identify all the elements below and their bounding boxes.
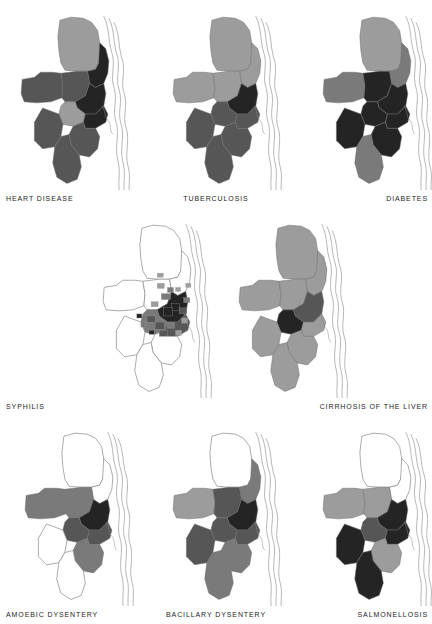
river-line-0: [406, 16, 422, 190]
map-tract-15: [149, 330, 154, 334]
map-region-north: [58, 17, 102, 71]
map-geometry: [239, 224, 348, 398]
map-panel-cirrhosis-of-the-liver: CIRRHOSIS OF THE LIVER: [216, 208, 432, 416]
map-region-north: [360, 17, 404, 71]
map-geometry: [21, 16, 130, 190]
map-geometry: [25, 432, 134, 606]
map-region-west-panhandle: [173, 488, 215, 519]
map-region-north: [210, 433, 254, 487]
river-line-0: [256, 16, 272, 190]
river-line-0: [104, 16, 120, 190]
map-tract-10: [155, 322, 164, 329]
map-tract-2: [161, 294, 170, 300]
map-region-west-panhandle: [173, 72, 215, 103]
river-line-0: [256, 432, 272, 606]
river-line-0: [186, 224, 202, 398]
map-geometry: [323, 16, 432, 190]
river-line-1: [191, 226, 207, 398]
map-tract-12: [167, 322, 174, 328]
map-region-west-panhandle: [323, 72, 365, 103]
river-line-2: [118, 438, 134, 606]
map-tract-11: [141, 322, 147, 327]
map-tract-4: [184, 298, 190, 303]
map-tract-6: [171, 304, 179, 311]
map-tract-19: [157, 273, 163, 277]
river-line-1: [411, 18, 427, 190]
choropleth-salmonellosis: [288, 416, 432, 606]
river-line-0: [108, 432, 124, 606]
river-line-2: [416, 438, 432, 606]
river-line-2: [266, 22, 282, 190]
river-line-1: [261, 18, 277, 190]
map-tract-5: [151, 302, 158, 307]
map-geometry: [173, 432, 282, 606]
river-line-0: [406, 432, 422, 606]
map-region-west-panhandle: [323, 488, 365, 519]
river-line-0: [322, 224, 338, 398]
river-line-2: [114, 22, 130, 190]
map-label-syphilis: SYPHILIS: [6, 403, 45, 410]
map-panel-amoebic-dysentery: AMOEBIC DYSENTERY: [0, 416, 144, 624]
map-region-west-panhandle: [239, 280, 281, 311]
map-tract-1: [167, 287, 173, 292]
map-region-west-panhandle: [25, 488, 67, 519]
map-panel-diabetes: DIABETES: [288, 0, 432, 208]
choropleth-syphilis: [0, 208, 216, 398]
map-tract-17: [137, 314, 142, 318]
choropleth-cirrhosis-of-the-liver: [216, 208, 432, 398]
river-line-2: [196, 230, 212, 398]
map-label-cirrhosis-of-the-liver: CIRRHOSIS OF THE LIVER: [320, 403, 428, 410]
map-region-west-panhandle: [103, 280, 145, 311]
map-region-north: [360, 433, 404, 487]
choropleth-amoebic-dysentery: [0, 416, 144, 606]
choropleth-diabetes: [288, 0, 432, 190]
river-line-2: [266, 438, 282, 606]
map-label-diabetes: DIABETES: [386, 195, 428, 202]
map-tract-3: [176, 287, 181, 291]
map-panel-salmonellosis: SALMONELLOSIS: [288, 416, 432, 624]
river-line-2: [332, 230, 348, 398]
map-label-tuberculosis: TUBERCULOSIS: [183, 195, 248, 202]
map-geometry: [323, 432, 432, 606]
map-region-north: [276, 225, 320, 279]
map-geometry: [103, 224, 212, 398]
map-tract-14: [159, 330, 167, 336]
map-tract-9: [147, 316, 155, 322]
river-line-2: [416, 22, 432, 190]
river-line-1: [113, 434, 129, 606]
map-panel-syphilis: SYPHILIS: [0, 208, 216, 416]
disease-map-matrix: HEART DISEASE TUBERCULOSIS DIABETES SYPH…: [0, 0, 432, 624]
map-tract-7: [163, 308, 172, 316]
map-label-bacillary-dysentery: BACILLARY DYSENTERY: [166, 611, 266, 618]
map-panel-tuberculosis: TUBERCULOSIS: [144, 0, 288, 208]
map-region-north: [62, 433, 106, 487]
map-tract-16: [176, 330, 182, 335]
map-panel-bacillary-dysentery: BACILLARY DYSENTERY: [144, 416, 288, 624]
map-region-north: [210, 17, 254, 71]
river-line-1: [411, 434, 427, 606]
map-tract-18: [186, 283, 191, 287]
choropleth-bacillary-dysentery: [144, 416, 288, 606]
river-line-1: [261, 434, 277, 606]
river-line-1: [109, 18, 125, 190]
map-label-salmonellosis: SALMONELLOSIS: [358, 611, 428, 618]
choropleth-tuberculosis: [144, 0, 288, 190]
map-tract-0: [157, 283, 164, 288]
map-label-heart-disease: HEART DISEASE: [6, 195, 73, 202]
river-line-1: [327, 226, 343, 398]
map-tract-8: [180, 308, 187, 314]
map-region-north: [140, 225, 184, 279]
map-region-west-panhandle: [21, 72, 63, 103]
map-geometry: [173, 16, 282, 190]
map-label-amoebic-dysentery: AMOEBIC DYSENTERY: [6, 611, 98, 618]
